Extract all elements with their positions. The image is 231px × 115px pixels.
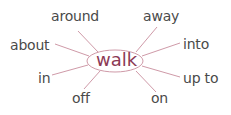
word-off: off xyxy=(72,91,90,105)
line-up-to xyxy=(142,66,180,77)
line-around xyxy=(78,31,98,52)
word-away: away xyxy=(143,9,179,23)
line-about xyxy=(55,44,89,56)
word-about: about xyxy=(10,38,49,52)
line-off xyxy=(84,71,100,89)
word-on: on xyxy=(151,91,168,105)
word-up-to: up to xyxy=(183,71,218,85)
word-into: into xyxy=(183,37,209,51)
line-in xyxy=(52,65,88,75)
line-away xyxy=(136,27,157,52)
center-word: walk xyxy=(96,51,137,69)
line-on xyxy=(136,71,156,92)
word-around: around xyxy=(51,9,99,23)
word-in: in xyxy=(38,71,50,85)
line-into xyxy=(142,43,180,56)
